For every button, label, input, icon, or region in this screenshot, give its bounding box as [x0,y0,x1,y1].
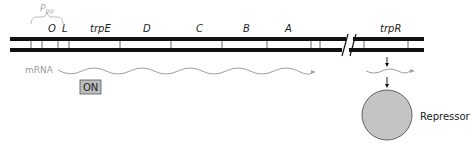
repressor-label: Repressor [420,111,471,122]
svg-text:ON: ON [83,82,98,93]
gene-label-trpE: trpE [90,23,111,34]
mrna-transcript [58,68,316,74]
leader-label: L [62,23,68,34]
translation-arrow [385,77,389,88]
trpR-transcription-arrow [385,57,389,67]
dna-trpR-segment [349,37,424,52]
gene-label-B: B [243,23,250,34]
gene-label-trpR: trpR [380,23,401,34]
gene-label-C: C [196,23,203,34]
dna-operon-segment [10,37,346,52]
gene-label-D: D [143,23,151,34]
promoter-label: Ptrp [40,3,54,15]
status-badge-on: ON [80,80,101,94]
repressor-protein [362,90,412,140]
trpR-mrna [366,69,415,73]
gene-label-A: A [284,23,292,34]
operator-label: O [48,23,56,34]
mrna-label: mRNA [25,65,54,75]
trp-operon-diagram: Ptrp O L trpE D C B A trpR mRNA [0,0,473,148]
